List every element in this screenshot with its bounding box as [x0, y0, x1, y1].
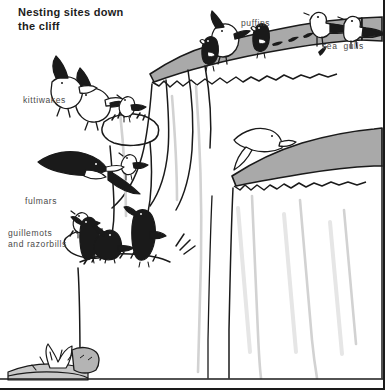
label-kittiwakes: kittiwakes	[23, 95, 66, 106]
illustration-canvas: Nesting sites down the cliff kittiwakes …	[0, 0, 385, 390]
sea-and-waves	[8, 344, 99, 380]
label-puffins: puffins	[241, 18, 270, 29]
kittiwake-flying-upper	[76, 68, 126, 130]
label-fulmars: fulmars	[25, 196, 57, 207]
plateau-jagged-edge	[152, 74, 337, 87]
cliff-illustration	[0, 0, 385, 390]
label-sea-gulls: sea gulls	[322, 41, 364, 52]
page-title: Nesting sites down the cliff	[18, 6, 124, 33]
label-guillemots-razorbills: guillemots and razorbills	[8, 228, 67, 250]
